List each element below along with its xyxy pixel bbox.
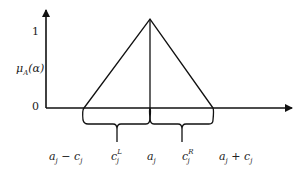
triangle-membership-curve [84,19,213,108]
y-tick-1: 1 [32,25,39,38]
label-aj-plus-cj: aj + cj [219,150,253,165]
y-tick-0: 0 [32,100,39,113]
right-spread-brace [150,108,214,142]
label-aj: aj [147,150,157,165]
membership-function-diagram: 1 0 μA(α) aj − cj cLj aj cRj aj + cj [0,0,301,172]
label-cj-L: cLj [111,148,122,165]
label-aj-minus-cj: aj − cj [49,150,83,165]
left-spread-brace [83,108,151,142]
label-cj-R: cRj [182,148,194,165]
y-axis-label: μA(α) [16,62,44,77]
